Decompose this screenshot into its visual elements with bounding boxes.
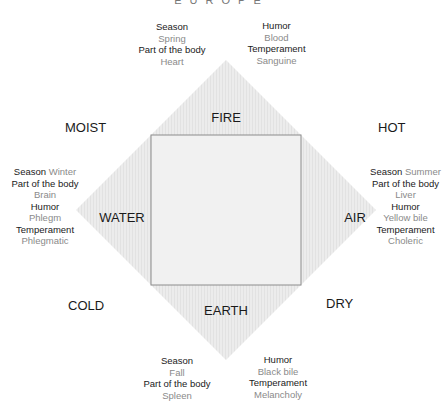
body-label: Part of the body [368,178,443,190]
humor-value: Yellow bile [368,212,443,224]
season-value: Spring [137,33,207,45]
humor-value: Phlegm [0,212,90,224]
temperament-label: Temperament [0,224,90,236]
temperament-value: Melancholy [248,389,308,401]
season-value: Fall [142,367,212,379]
temperament-label: Temperament [244,43,309,55]
season-label: Season [142,355,212,367]
body-label: Part of the body [142,378,212,390]
quality-dry: DRY [326,296,353,311]
blood-info: Humor Blood Temperament Sanguine [244,20,309,66]
humor-value: Black bile [248,366,308,378]
body-value: Spleen [142,390,212,402]
qualities-square [151,135,301,285]
temperament-value: Phlegmatic [0,235,90,247]
humor-label: Humor [248,354,308,366]
element-water: WATER [87,210,157,225]
fall-info: Season Fall Part of the body Spleen [142,355,212,401]
humor-value: Blood [244,32,309,44]
temperament-value: Choleric [368,235,443,247]
season-label: Season [14,166,46,177]
season-label: Season [370,166,402,177]
element-fire: FIRE [186,110,266,125]
body-value: Liver [368,189,443,201]
spring-info: Season Spring Part of the body Heart [137,21,207,67]
humor-label: Humor [0,201,90,213]
temperament-label: Temperament [248,377,308,389]
season-value: Winter [49,166,76,177]
winter-info: Season Winter Part of the body Brain Hum… [0,166,90,247]
body-value: Heart [137,56,207,68]
body-label: Part of the body [0,178,90,190]
temperament-value: Sanguine [244,55,309,67]
temperament-label: Temperament [368,224,443,236]
quality-cold: COLD [68,298,104,313]
season-label: Season [137,21,207,33]
season-value: Summer [405,166,441,177]
humor-label: Humor [244,20,309,32]
body-label: Part of the body [137,44,207,56]
humor-label: Humor [368,201,443,213]
quality-hot: HOT [378,120,405,135]
element-earth: EARTH [186,303,266,318]
summer-info: Season Summer Part of the body Liver Hum… [368,166,443,247]
body-value: Brain [0,189,90,201]
blackbile-info: Humor Black bile Temperament Melancholy [248,354,308,400]
quality-moist: MOIST [65,120,106,135]
